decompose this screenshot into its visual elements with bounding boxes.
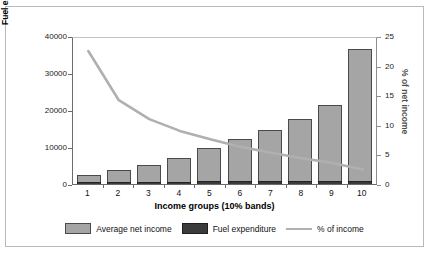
bar-fuel-expenditure xyxy=(107,182,131,184)
y-axis-right-tick-label: 10 xyxy=(385,121,394,130)
bar-slot xyxy=(258,38,282,184)
bar-fuel-expenditure xyxy=(228,181,252,184)
bar-average-net-income xyxy=(137,165,161,184)
y-axis-left-tick-label: 40000 xyxy=(36,32,67,41)
bar-average-net-income xyxy=(348,49,372,184)
bar-average-net-income xyxy=(288,119,312,184)
bar-average-net-income xyxy=(258,130,282,184)
bar-slot xyxy=(137,38,161,184)
bar-slot xyxy=(228,38,252,184)
chart-frame: Fuel expenditure & net income (£) % of n… xyxy=(5,6,424,247)
y-axis-right-tick-mark xyxy=(377,67,381,68)
chart-legend: Average net income Fuel expenditure % of… xyxy=(6,223,423,234)
bar-average-net-income xyxy=(197,148,221,184)
bar-average-net-income xyxy=(228,139,252,184)
legend-item-percent-of-income: % of income xyxy=(286,223,364,234)
bar-fuel-expenditure xyxy=(348,181,372,184)
fuel-expenditure-swatch-icon xyxy=(182,223,208,234)
y-axis-right-tick-label: 5 xyxy=(385,150,389,159)
bar-fuel-expenditure xyxy=(318,181,342,184)
bar-average-net-income xyxy=(77,175,101,184)
y-axis-right-tick-label: 25 xyxy=(385,32,394,41)
y-axis-left-tick-label: 10000 xyxy=(36,143,67,152)
y-axis-left-tick-label: 0 xyxy=(36,180,67,189)
y-axis-right-tick-mark xyxy=(377,185,381,186)
bar-average-net-income xyxy=(318,105,342,184)
bar-fuel-expenditure xyxy=(137,182,161,184)
x-axis-title: Income groups (10% bands) xyxy=(6,201,423,211)
bar-slot xyxy=(318,38,342,184)
legend-label-average-net-income: Average net income xyxy=(96,224,171,234)
legend-item-fuel-expenditure: Fuel expenditure xyxy=(182,223,276,234)
x-axis-tick-label: 10 xyxy=(347,188,377,198)
bar-fuel-expenditure xyxy=(258,181,282,184)
y-axis-right-tick-mark xyxy=(377,96,381,97)
y-axis-left-tick-mark xyxy=(68,185,72,186)
bar-slot xyxy=(107,38,131,184)
net-income-swatch-icon xyxy=(65,223,91,234)
bar-fuel-expenditure xyxy=(288,181,312,184)
y-axis-right-title: % of net income xyxy=(400,69,410,189)
bar-group xyxy=(73,38,376,184)
legend-item-average-net-income: Average net income xyxy=(65,223,171,234)
x-axis-tick-label: 4 xyxy=(164,188,194,198)
y-axis-right-tick-mark xyxy=(377,155,381,156)
bar-slot xyxy=(77,38,101,184)
y-axis-right-tick-label: 20 xyxy=(385,62,394,71)
bar-fuel-expenditure xyxy=(167,182,191,184)
x-axis-tick-label: 9 xyxy=(316,188,346,198)
x-axis-tick-label: 7 xyxy=(255,188,285,198)
bar-slot xyxy=(288,38,312,184)
bar-average-net-income xyxy=(107,170,131,184)
y-axis-right-tick-mark xyxy=(377,126,381,127)
chart-figure: Fuel expenditure & net income (£) % of n… xyxy=(0,0,432,256)
bar-average-net-income xyxy=(167,158,191,184)
bar-fuel-expenditure xyxy=(197,181,221,184)
bar-slot xyxy=(348,38,372,184)
x-axis-tick-label: 6 xyxy=(225,188,255,198)
bar-slot xyxy=(197,38,221,184)
y-axis-right-tick-label: 0 xyxy=(385,180,389,189)
x-axis-tick-label: 8 xyxy=(286,188,316,198)
y-axis-left-tick-label: 20000 xyxy=(36,106,67,115)
y-axis-left-title: Fuel expenditure & net income (£) xyxy=(0,0,10,25)
y-axis-right-tick-label: 15 xyxy=(385,91,394,100)
y-axis-left-tick-label: 30000 xyxy=(36,69,67,78)
legend-label-percent-of-income: % of income xyxy=(317,224,364,234)
x-axis-tick-label: 5 xyxy=(194,188,224,198)
y-axis-right-tick-mark xyxy=(377,37,381,38)
bar-fuel-expenditure xyxy=(77,182,101,184)
percent-line-swatch-icon xyxy=(286,223,312,234)
x-axis-tick-label: 1 xyxy=(72,188,102,198)
x-axis-tick-label: 2 xyxy=(103,188,133,198)
x-axis-tick-label: 3 xyxy=(133,188,163,198)
bar-slot xyxy=(167,38,191,184)
legend-label-fuel-expenditure: Fuel expenditure xyxy=(213,224,276,234)
plot-area xyxy=(72,37,377,185)
